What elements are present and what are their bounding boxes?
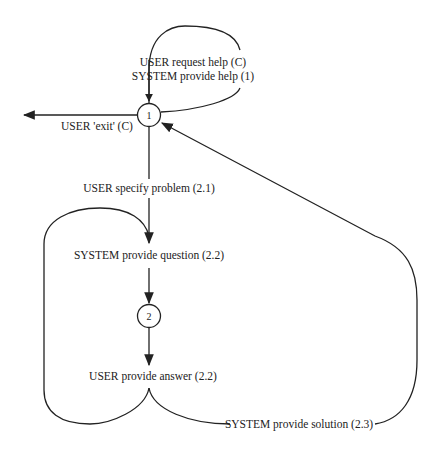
self-loop-label-line2: SYSTEM provide help (1) xyxy=(132,70,255,83)
provide-question-label: SYSTEM provide question (2.2) xyxy=(74,249,224,262)
specify-problem-label: USER specify problem (2.1) xyxy=(83,182,215,195)
node-1: 1 xyxy=(138,104,161,127)
node-2-label: 2 xyxy=(147,311,152,322)
node-1-label: 1 xyxy=(147,110,152,121)
self-loop-edge-bottom xyxy=(161,88,240,112)
provide-answer-label: USER provide answer (2.2) xyxy=(89,370,217,383)
answer-to-question-loop-edge xyxy=(44,208,149,424)
solution-edge-left xyxy=(149,388,230,424)
exit-label: USER 'exit' (C) xyxy=(61,120,133,133)
provide-solution-label: SYSTEM provide solution (2.3) xyxy=(225,418,373,431)
node-2: 2 xyxy=(138,305,161,328)
self-loop-label-line1: USER request help (C) xyxy=(140,56,247,69)
dialogue-network-diagram: USER request help (C) SYSTEM provide hel… xyxy=(0,0,440,453)
